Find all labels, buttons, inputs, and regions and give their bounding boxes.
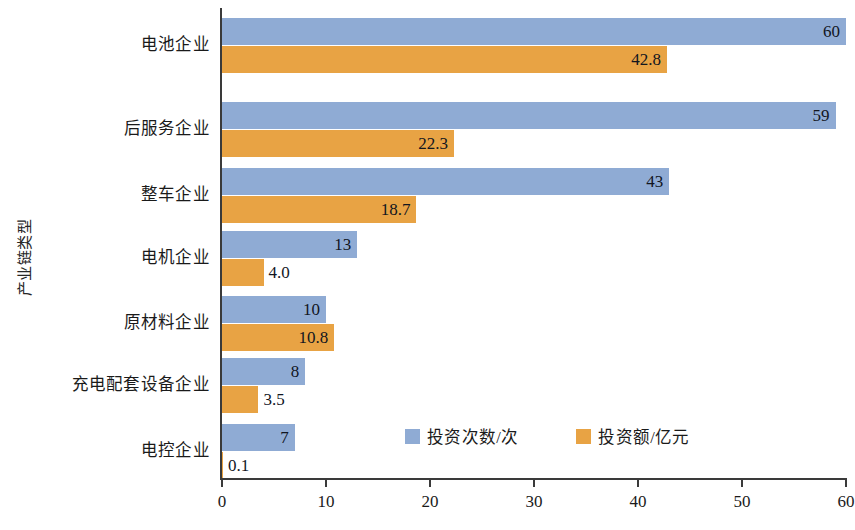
legend-label: 投资额/亿元 [598,424,689,448]
bar-value-label: 59 [813,102,830,129]
category-label-5: 充电配套设备企业 [72,377,210,394]
x-tick-0 [221,478,223,487]
x-tick-label-1: 10 [318,492,335,512]
category-label-2: 整车企业 [141,187,210,204]
bar-0-0: 60 [222,18,846,45]
x-tick-label-4: 40 [630,492,647,512]
category-label-4: 原材料企业 [124,315,211,332]
bar-value-label: 42.8 [631,46,661,73]
bar-0-1: 59 [222,102,836,129]
bar-1-3: 4.0 [222,259,264,286]
bar-value-label: 13 [334,231,351,258]
category-axis-labels: 电池企业后服务企业整车企业电机企业原材料企业充电配套设备企业电控企业 [0,0,216,476]
bar-value-label: 10 [303,296,320,323]
category-label-3: 电机企业 [141,250,210,267]
x-tick-2 [429,478,431,487]
x-tick-label-3: 30 [526,492,543,512]
x-tick-label-2: 20 [422,492,439,512]
x-tick-label-6: 60 [838,492,855,512]
bar-1-2: 18.7 [222,196,416,223]
bar-value-label: 22.3 [418,130,448,157]
bar-value-label: 43 [646,168,663,195]
bar-value-label: 60 [823,18,840,45]
bar-value-label: 0.1 [228,452,249,479]
x-tick-1 [325,478,327,487]
x-tick-label-5: 50 [734,492,751,512]
bar-0-6: 7 [222,424,295,451]
x-tick-3 [533,478,535,487]
legend-swatch-icon [405,429,420,444]
bar-1-0: 42.8 [222,46,667,73]
bar-value-label: 8 [291,358,300,385]
category-label-6: 电控企业 [141,443,210,460]
legend-item-0[interactable]: 投资次数/次 [405,424,518,448]
category-label-0: 电池企业 [141,37,210,54]
bar-value-label: 4.0 [269,259,290,286]
plot-area: 6042.85922.34318.7134.01010.883.570.1010… [222,8,846,478]
x-tick-4 [637,478,639,487]
legend-swatch-icon [576,429,591,444]
bar-1-6: 0.1 [222,452,223,479]
x-tick-5 [741,478,743,487]
bar-1-4: 10.8 [222,324,334,351]
bar-1-1: 22.3 [222,130,454,157]
bar-0-2: 43 [222,168,669,195]
bar-value-label: 18.7 [381,196,411,223]
x-tick-6 [845,478,847,487]
x-tick-label-0: 0 [218,492,227,512]
bar-0-5: 8 [222,358,305,385]
bar-value-label: 3.5 [263,386,284,413]
category-label-1: 后服务企业 [124,121,211,138]
chart-legend: 投资次数/次投资额/亿元 [405,424,690,448]
bar-1-5: 3.5 [222,386,258,413]
bar-value-label: 10.8 [299,324,329,351]
legend-item-1[interactable]: 投资额/亿元 [576,424,689,448]
bar-0-4: 10 [222,296,326,323]
bar-0-3: 13 [222,231,357,258]
legend-label: 投资次数/次 [427,424,518,448]
bar-value-label: 7 [280,424,289,451]
